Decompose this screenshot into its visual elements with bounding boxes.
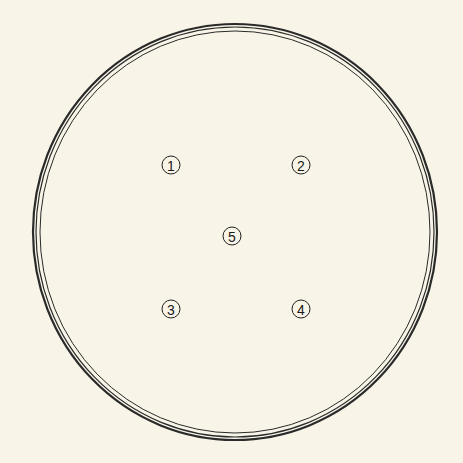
position-marker-5: 5: [223, 227, 242, 246]
position-marker-2: 2: [292, 156, 311, 175]
marker-label-5: 5: [228, 229, 236, 243]
position-marker-3: 3: [162, 300, 181, 319]
marker-label-1: 1: [167, 158, 175, 172]
position-marker-4: 4: [292, 300, 311, 319]
marker-label-3: 3: [167, 302, 175, 316]
marker-label-2: 2: [297, 158, 305, 172]
marker-label-4: 4: [297, 302, 305, 316]
position-marker-1: 1: [162, 156, 181, 175]
